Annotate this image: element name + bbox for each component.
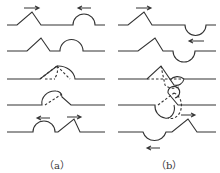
panel-b-row-2 [118,38,216,62]
panel-a-row-4 [7,91,105,105]
panel-a-row-5 [7,115,105,132]
panel-a-row-3 [7,66,105,79]
pulse-superposition-diagram [0,0,220,173]
panel-a-row-1 [7,6,105,25]
panel-b-label: （b） [156,157,182,172]
panel-b-row-4 [118,86,216,118]
panel-b-row-1 [118,6,216,43]
panel-a-row-2 [7,38,105,51]
panel-a-label: （a） [44,157,70,172]
panel-b-row-3 [118,66,216,88]
